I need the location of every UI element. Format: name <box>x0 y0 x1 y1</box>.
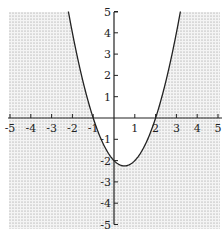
x-tick-label: 2 <box>152 122 159 135</box>
x-tick-label: -3 <box>46 122 57 135</box>
x-tick-label: -2 <box>67 122 78 135</box>
x-tick-label: 5 <box>215 122 222 135</box>
y-tick-label: -4 <box>100 197 111 210</box>
x-tick-label: 1 <box>131 122 138 135</box>
y-tick-label: -3 <box>100 176 111 189</box>
y-tick-label: -2 <box>100 155 111 168</box>
x-tick-label: 3 <box>173 122 180 135</box>
x-tick-label: 4 <box>194 122 201 135</box>
x-tick-label: -5 <box>5 122 16 135</box>
x-tick-label: -4 <box>25 122 36 135</box>
y-tick-label: -1 <box>100 133 111 146</box>
y-tick-label: 1 <box>104 91 111 104</box>
x-tick-label: -1 <box>88 122 99 135</box>
inequality-graph: -5-4-3-2-11234554321-1-2-3-4-5 <box>0 0 224 237</box>
y-tick-label: 4 <box>104 27 111 40</box>
y-tick-label: -5 <box>100 219 111 232</box>
y-tick-label: 3 <box>104 48 111 61</box>
y-tick-label: 5 <box>104 6 111 19</box>
y-tick-label: 2 <box>104 69 111 82</box>
